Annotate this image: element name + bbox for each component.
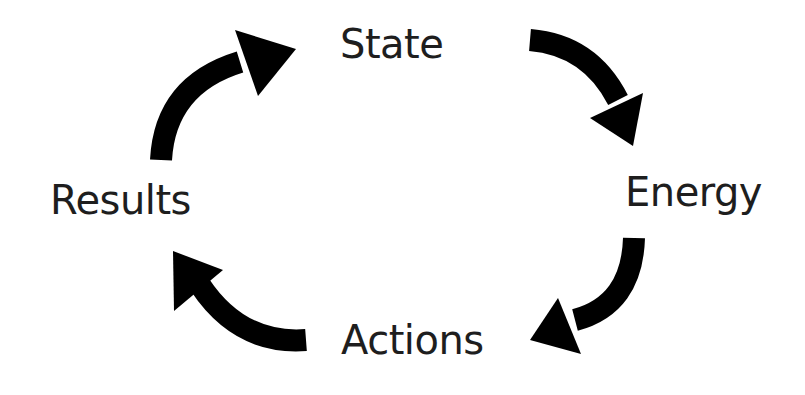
arrow-results-to-state-icon: [161, 30, 296, 160]
arrow-energy-to-actions-icon: [530, 238, 634, 354]
cycle-arrows: [0, 0, 805, 395]
arrow-state-to-energy-icon: [530, 40, 643, 146]
arrow-actions-to-results-icon: [173, 251, 306, 340]
